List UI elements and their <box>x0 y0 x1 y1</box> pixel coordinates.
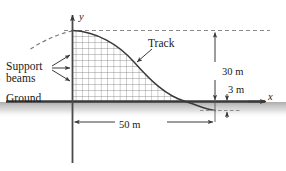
support-beams-label: Support beams <box>6 60 42 85</box>
x-axis-label: x <box>268 91 273 102</box>
track-dashed-extension <box>31 31 73 49</box>
track-leader-line <box>137 49 152 62</box>
dimension-30m-label: 30 m <box>222 66 243 77</box>
ground-label: Ground <box>6 92 41 104</box>
support-beam-leaders <box>52 55 70 81</box>
track-label: Track <box>148 37 174 49</box>
ground-shading <box>0 102 286 118</box>
y-axis-label: y <box>79 11 84 22</box>
track-profile-figure: Support beams Ground Track 30 m 3 m 50 m… <box>0 0 286 171</box>
dimension-50m-label: 50 m <box>117 119 142 130</box>
dimension-3m-label: 3 m <box>228 84 244 95</box>
